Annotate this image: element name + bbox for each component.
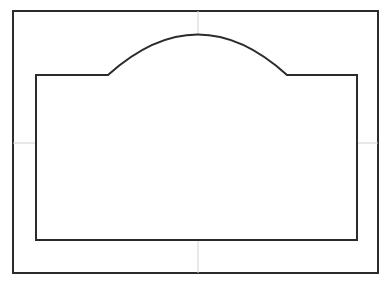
drawing-canvas — [0, 0, 386, 286]
drawing-page — [0, 0, 386, 286]
